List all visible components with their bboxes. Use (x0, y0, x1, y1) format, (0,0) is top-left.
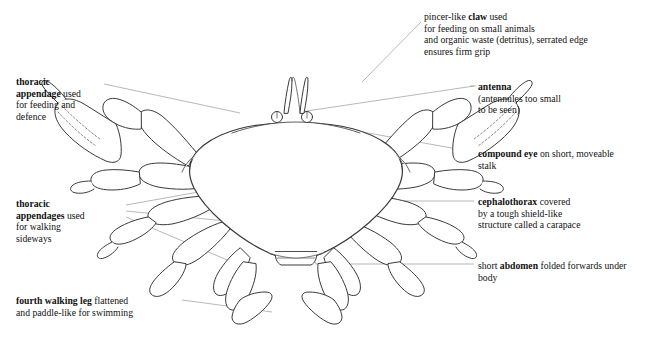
right-walking-leg-1-merus (434, 170, 483, 190)
label-line: (antennules too small (478, 93, 561, 105)
label-text: used (61, 88, 81, 99)
label-term: appendage (16, 88, 61, 99)
label-line: for walking (16, 221, 85, 233)
label-term: appendages (16, 210, 64, 221)
antenna-label: antenna(antennules too smallto be seen) (478, 81, 561, 116)
right-walking-leg-2-dactyl (456, 242, 477, 259)
label-term: claw (468, 11, 487, 22)
label-line: appendages used (16, 210, 85, 222)
label-term: abdomen (500, 260, 538, 271)
label-text: short (478, 260, 500, 271)
thoracic-appendages-label: thoracicappendages usedfor walkingsidewa… (16, 198, 85, 244)
label-text: flattened (92, 295, 128, 306)
label-text: (antennules too small (478, 93, 561, 104)
label-text: ensures firm grip (424, 46, 490, 57)
left-walking-leg-1-dactyl (71, 181, 94, 193)
left-walking-leg-2-dactyl (97, 242, 118, 259)
abdomen-label: short abdomen folded forwards underbody (478, 260, 627, 283)
left-antenna (284, 77, 292, 113)
left-antenna-edge (292, 77, 300, 113)
label-text: body (478, 272, 497, 283)
label-line: fourth walking leg flattened (16, 295, 133, 307)
label-line: antenna (478, 81, 561, 93)
left-walking-leg-3-coxa (172, 222, 230, 265)
label-text: stalk (478, 160, 496, 171)
label-text: defence (16, 111, 46, 122)
label-text: for walking (16, 221, 61, 232)
label-line: short abdomen folded forwards under (478, 260, 627, 272)
label-term: fourth walking leg (16, 295, 92, 306)
label-text: sideways (16, 233, 52, 244)
thoracic-appendage-label: thoracicappendage usedfor feeding anddef… (16, 76, 81, 122)
claw-label: pincer-like claw usedfor feeding on smal… (424, 11, 588, 57)
label-line: cephalothorax covered (478, 196, 580, 208)
right-antenna (300, 77, 308, 113)
label-term: compound eye (478, 148, 537, 159)
label-text: folded forwards under (538, 260, 627, 271)
label-text: for feeding on small animals (424, 23, 535, 34)
label-line: to be seen) (478, 104, 561, 116)
label-text: structure called a carapace (478, 219, 580, 230)
label-text: and organic waste (detritus), serrated e… (424, 34, 588, 45)
label-line: appendage used (16, 88, 81, 100)
cephalothorax-label: cephalothorax coveredby a tough shield-l… (478, 196, 580, 231)
label-line: body (478, 272, 627, 284)
label-line: defence (16, 111, 81, 123)
label-term: thoracic (16, 76, 50, 87)
label-term: antenna (478, 81, 511, 92)
label-text: pincer-like (424, 11, 468, 22)
label-line: sideways (16, 233, 85, 245)
label-term: cephalothorax (478, 196, 537, 207)
label-text: covered (537, 196, 570, 207)
left-walking-leg-1-merus (91, 170, 140, 190)
label-text: and paddle-like for swimming (16, 307, 133, 318)
label-line: for feeding on small animals (424, 23, 588, 35)
carapace-front-rim (232, 122, 360, 133)
label-text: for feeding and (16, 99, 75, 110)
compound-eye-label: compound eye on short, moveablestalk (478, 148, 614, 171)
label-line: and organic waste (detritus), serrated e… (424, 34, 588, 46)
label-line: and paddle-like for swimming (16, 307, 133, 319)
label-line: compound eye on short, moveable (478, 148, 614, 160)
label-line: for feeding and (16, 99, 81, 111)
label-line: thoracic (16, 198, 85, 210)
label-text: used (487, 11, 507, 22)
label-line: by a tough shield-like (478, 208, 580, 220)
label-text: on short, moveable (537, 148, 613, 159)
right-walking-leg-3-merus (388, 262, 424, 296)
label-term: thoracic (16, 198, 50, 209)
label-line: structure called a carapace (478, 219, 580, 231)
label-line: ensures firm grip (424, 46, 588, 58)
right-walking-leg-1-dactyl (480, 181, 503, 193)
label-text: by a tough shield-like (478, 208, 562, 219)
left-claw-arm-upper (139, 110, 196, 166)
right-walking-leg-2-merus (418, 217, 464, 244)
label-text: used (64, 210, 84, 221)
label-line: pincer-like claw used (424, 11, 588, 23)
label-line: stalk (478, 160, 614, 172)
crab-anatomy-diagram-page: pincer-like claw usedfor feeding on smal… (0, 0, 651, 339)
left-walking-leg-2-merus (110, 217, 156, 244)
label-line: thoracic (16, 76, 81, 88)
leader-claw (362, 22, 421, 82)
left-walking-leg-3-merus (150, 262, 186, 296)
fourth-walking-leg-label: fourth walking leg flattenedand paddle-l… (16, 295, 133, 318)
label-text: to be seen) (478, 104, 520, 115)
